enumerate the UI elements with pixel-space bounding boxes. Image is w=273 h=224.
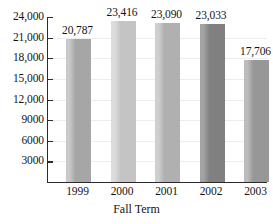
- x-axis-tick-label: 2002: [200, 186, 223, 198]
- bar-value-label: 23,090: [151, 9, 182, 21]
- bar-value-label: 23,416: [106, 7, 137, 19]
- y-axis-tick-label: 3000: [21, 156, 44, 168]
- y-axis-tick-mark: [48, 141, 53, 142]
- x-axis-title: Fall Term: [0, 203, 273, 215]
- y-axis-tick-mark: [48, 17, 53, 18]
- bar-chart: 30006000900012,00015,00018,00021,00024,0…: [0, 0, 273, 224]
- bar: [155, 23, 180, 182]
- y-axis-tick-label: 21,000: [13, 32, 44, 44]
- bar-value-label: 20,787: [62, 25, 93, 37]
- bar-fill: [244, 60, 269, 182]
- x-axis-tick-label: 1999: [66, 186, 89, 198]
- y-axis-tick-mark: [48, 58, 53, 59]
- bar-value-label: 23,033: [195, 10, 226, 22]
- plot-area: [47, 17, 267, 183]
- x-axis-tick-label: 2000: [111, 186, 134, 198]
- y-axis-tick-mark: [48, 120, 53, 121]
- bar-value-label: 17,706: [240, 46, 271, 58]
- y-axis-label-group: 30006000900012,00015,00018,00021,00024,0…: [0, 0, 44, 224]
- bar: [200, 24, 225, 182]
- y-axis-tick-mark: [48, 79, 53, 80]
- y-axis-tick-label: 12,000: [13, 94, 44, 106]
- y-axis-tick-label: 9000: [21, 114, 44, 126]
- y-axis-tick-label: 18,000: [13, 53, 44, 65]
- bar-fill: [111, 21, 136, 182]
- bar-fill: [66, 39, 91, 182]
- x-axis-tick-label: 2001: [155, 186, 178, 198]
- bar: [66, 39, 91, 182]
- x-axis-tick-label: 2003: [244, 186, 267, 198]
- bar-fill: [200, 24, 225, 182]
- y-axis-tick-mark: [48, 38, 53, 39]
- y-axis-tick-label: 6000: [21, 135, 44, 147]
- y-axis-tick-label: 24,000: [13, 11, 44, 23]
- bar: [111, 21, 136, 182]
- y-axis-tick-mark: [48, 161, 53, 162]
- bar: [244, 60, 269, 182]
- bar-fill: [155, 23, 180, 182]
- y-axis-tick-label: 15,000: [13, 73, 44, 85]
- y-axis-tick-mark: [48, 100, 53, 101]
